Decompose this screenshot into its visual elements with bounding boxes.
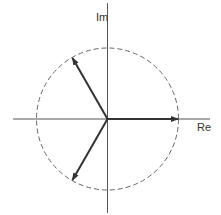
- phasor-240deg-arrow: [73, 119, 108, 180]
- phasor-120deg-arrow: [73, 58, 108, 119]
- phasor-diagram: [0, 0, 221, 215]
- real-axis-label: Re: [197, 122, 211, 133]
- imaginary-axis-label: Im: [96, 12, 108, 23]
